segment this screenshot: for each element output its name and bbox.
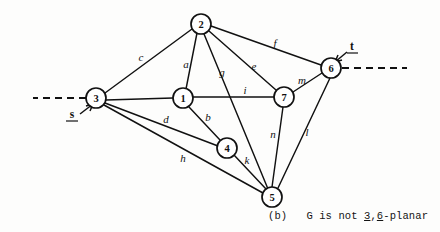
caption-suffix: -planar	[383, 210, 428, 222]
edge-n-7-5	[272, 107, 283, 187]
node-2-label: 2	[198, 19, 203, 30]
node-7-label: 7	[281, 92, 286, 103]
edge-label-m: m	[298, 74, 306, 86]
edge-label-f: f	[273, 37, 278, 49]
terminal-label-t: t	[350, 40, 354, 52]
edge-label-d: d	[163, 113, 169, 125]
edge-e-2-7	[209, 31, 276, 90]
caption-text: G is not	[306, 210, 357, 222]
edge-label-a: a	[183, 58, 189, 70]
figure-container: 1 2 3 4 5 6 7 a b c d e	[0, 0, 440, 232]
graph-diagram: 1 2 3 4 5 6 7 a b c d e	[0, 0, 440, 232]
edge-label-k: k	[245, 154, 251, 166]
edge-label-b: b	[205, 111, 211, 123]
edge-label-l: l	[305, 126, 308, 138]
edge-d-3-4	[105, 103, 218, 146]
node-7[interactable]: 7	[274, 87, 294, 107]
edge-3-1	[106, 98, 173, 100]
terminal-label-s: s	[70, 108, 75, 120]
node-3-label: 3	[93, 93, 98, 104]
figure-caption: (b) G is not 3,6-planar	[268, 210, 428, 222]
edge-c-2-3	[105, 29, 192, 93]
node-1-label: 1	[180, 93, 185, 104]
edge-label-h: h	[180, 152, 186, 164]
edge-label-i: i	[243, 84, 246, 96]
node-4-label: 4	[224, 143, 230, 154]
node-5[interactable]: 5	[262, 187, 282, 207]
node-6-label: 6	[328, 63, 333, 74]
node-1[interactable]: 1	[173, 88, 193, 108]
edge-label-g: g	[219, 66, 225, 78]
caption-prefix: (b)	[268, 210, 287, 222]
node-4[interactable]: 4	[217, 138, 237, 158]
edge-f-2-6	[211, 26, 321, 65]
node-2[interactable]: 2	[191, 14, 211, 34]
node-3[interactable]: 3	[86, 88, 106, 108]
edge-label-e: e	[252, 60, 257, 72]
edge-label-n: n	[270, 128, 276, 140]
node-6[interactable]: 6	[321, 58, 341, 78]
edge-label-c: c	[139, 51, 144, 63]
node-5-label: 5	[269, 192, 274, 203]
